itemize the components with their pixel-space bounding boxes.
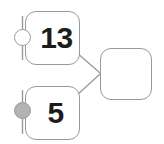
node-bottom[interactable]: 5 xyxy=(25,86,80,140)
node-top[interactable]: 13 xyxy=(25,11,80,65)
node-bottom-label: 5 xyxy=(41,98,63,128)
diagram-canvas: 13 5 xyxy=(0,0,164,144)
edge-bottom-to-right[interactable] xyxy=(76,74,100,96)
node-top-label: 13 xyxy=(32,23,72,53)
input-port-hollow-icon[interactable] xyxy=(14,29,31,46)
node-right[interactable] xyxy=(100,48,152,100)
input-port-filled-icon[interactable] xyxy=(14,102,31,119)
